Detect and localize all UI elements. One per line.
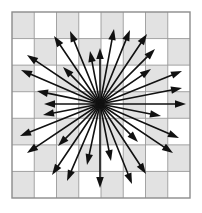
- grid-cell: [79, 12, 101, 39]
- grid-cell: [101, 171, 123, 198]
- vector-field-canvas: [0, 0, 202, 213]
- grid-cell: [34, 145, 56, 172]
- grid-cell: [168, 145, 190, 172]
- grid-cell: [168, 12, 190, 39]
- grid-cell: [12, 171, 34, 198]
- grid-cell: [34, 12, 56, 39]
- grid-cell: [57, 12, 79, 39]
- grid-cell: [12, 39, 34, 66]
- grid-cell: [101, 145, 123, 172]
- grid-cell: [79, 171, 101, 198]
- grid-cell: [12, 12, 34, 39]
- grid-cell: [146, 171, 168, 198]
- grid-cell: [168, 39, 190, 66]
- grid-cell: [168, 171, 190, 198]
- grid-cell: [12, 65, 34, 92]
- grid-cell: [146, 39, 168, 66]
- grid-cell: [34, 171, 56, 198]
- vector-field-figure: [0, 0, 202, 213]
- grid-cell: [146, 12, 168, 39]
- grid-cell: [34, 65, 56, 92]
- grid-cell: [12, 92, 34, 119]
